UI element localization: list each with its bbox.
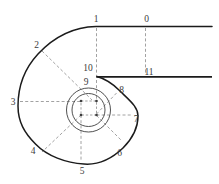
outer-base-circle (67, 88, 111, 132)
station-line-2-diagonal (42, 51, 92, 100)
station-label-1: 1 (94, 14, 99, 24)
station-label-6: 6 (117, 148, 122, 158)
station-label-2: 2 (34, 40, 39, 50)
station-label-11: 11 (144, 67, 153, 77)
station-line-4-diagonal (42, 115, 81, 152)
arc-center-dot-top-left (80, 100, 83, 103)
arc-center-dot-bottom-right (95, 114, 98, 117)
station-label-7: 7 (134, 114, 139, 124)
station-label-8: 8 (119, 85, 124, 95)
station-label-5: 5 (80, 166, 85, 176)
station-label-9: 9 (84, 77, 89, 87)
station-label-0: 0 (144, 14, 149, 24)
construction-square-outline (81, 101, 97, 115)
station-line-8-diagonal (97, 92, 119, 115)
station-label-10: 10 (83, 63, 93, 73)
volute-diagram: 01234567891011 (0, 0, 219, 184)
station-label-4: 4 (31, 146, 36, 156)
arc-center-square (80, 100, 98, 117)
arc-center-dot-bottom-left (80, 114, 83, 117)
station-label-3: 3 (11, 97, 16, 107)
arc-center-dot-top-right (95, 100, 98, 103)
volute-diagram-canvas: 01234567891011 (0, 0, 219, 184)
volute-spiral-curve (18, 27, 212, 165)
